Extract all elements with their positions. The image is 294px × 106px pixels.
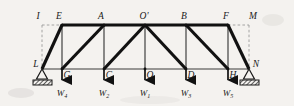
diagonal-G-A	[62, 25, 104, 69]
joint-A	[103, 24, 106, 27]
load-label-W1: W1	[140, 88, 151, 99]
joint-B	[185, 24, 188, 27]
label-H: H	[229, 70, 238, 80]
label-M: M	[248, 11, 258, 21]
support-N	[240, 69, 259, 85]
load-label-W2: W2	[99, 88, 110, 99]
diagonal-L-E	[42, 25, 62, 69]
label-E: E	[55, 11, 62, 21]
label-D: D	[187, 70, 195, 80]
joint-E	[61, 24, 64, 27]
load-arrows	[62, 69, 228, 80]
diagonal-C-Oprime	[104, 25, 145, 69]
truss-drawing: I E A O' B F M L G C O D H N W4 W2	[0, 0, 294, 106]
support-base-hatch-N	[240, 80, 259, 85]
label-L: L	[32, 59, 38, 69]
label-I: I	[35, 11, 40, 21]
label-G: G	[64, 70, 71, 80]
vertical-members	[62, 25, 228, 69]
joint-Oprime	[143, 23, 146, 26]
label-C: C	[106, 70, 113, 80]
support-L	[33, 69, 52, 85]
label-O-prime: O'	[140, 11, 150, 21]
label-N: N	[252, 59, 260, 69]
diagonal-B-H	[186, 25, 228, 69]
load-label-W3: W3	[181, 88, 192, 99]
label-A: A	[97, 11, 104, 21]
load-label-W5: W5	[223, 88, 234, 99]
truss-diagram-figure: I E A O' B F M L G C O D H N W4 W2	[0, 0, 294, 106]
support-base-hatch-L	[33, 80, 52, 85]
load-labels: W4 W2 W1 W3 W5	[57, 88, 234, 99]
label-O: O	[147, 70, 154, 80]
label-F: F	[222, 11, 229, 21]
top-node-labels: I E A O' B F M	[35, 11, 258, 21]
joint-F	[227, 24, 230, 27]
diagonal-Oprime-D	[145, 25, 186, 69]
load-label-W4: W4	[57, 88, 68, 99]
diagonal-F-N	[228, 25, 249, 69]
label-B: B	[181, 11, 187, 21]
